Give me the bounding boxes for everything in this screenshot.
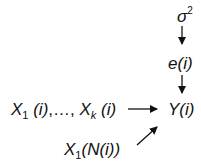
edge-neighbor-to-outcome <box>137 127 157 145</box>
sigma-symbol: σ <box>177 7 187 26</box>
sigma-superscript: 2 <box>187 5 193 16</box>
covariate-first-var: X <box>11 100 22 119</box>
neighbor-arg: (N(i)) <box>81 140 120 159</box>
covariate-last-var: X <box>79 100 90 119</box>
outcome-var: Y <box>168 100 179 119</box>
covariate-separator: ,…, <box>48 100 79 119</box>
covariate-last-arg: (i) <box>96 100 116 119</box>
node-neighbor-covariate: X1(N(i)) <box>64 141 120 161</box>
outcome-arg: (i) <box>179 100 194 119</box>
error-arg: (i) <box>177 54 192 73</box>
node-sigma-squared: σ2 <box>177 6 193 25</box>
neighbor-var: X <box>64 140 75 159</box>
covariate-first-arg: (i) <box>28 100 48 119</box>
node-outcome: Y(i) <box>168 101 194 118</box>
node-error: e(i) <box>168 55 193 72</box>
node-covariates: X1 (i),…, Xk (i) <box>11 101 116 121</box>
